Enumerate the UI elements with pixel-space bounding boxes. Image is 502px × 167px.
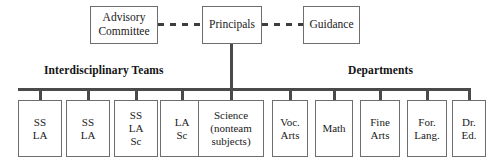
stub-line-leaf-5 [230, 88, 233, 100]
node-principals: Principals [202, 6, 262, 44]
stub-line-leaf-7 [333, 88, 336, 100]
node-leaf-dr-ed-label: Dr. Ed. [462, 116, 477, 142]
stub-line-leaf-3 [135, 88, 138, 100]
org-chart-diagram: Advisory Committee Principals Guidance I… [0, 0, 502, 167]
stub-line-leaf-4 [181, 88, 184, 100]
stub-line-leaf-10 [468, 88, 471, 100]
node-leaf-ss-la-1: SS LA [18, 100, 62, 157]
stub-line-leaf-2 [87, 88, 90, 100]
node-leaf-for-lang-label: For. Lang. [414, 116, 439, 142]
node-leaf-la-sc-label: LA Sc [175, 116, 190, 142]
stub-line-leaf-1 [39, 88, 42, 100]
node-leaf-fine-arts-label: Fine Arts [370, 116, 390, 142]
node-leaf-science-nonteam-label: Science (nonteam subjects) [210, 109, 252, 148]
node-leaf-voc-arts-label: Voc. Arts [280, 116, 300, 142]
horizontal-bus-line [18, 88, 468, 91]
stub-line-leaf-9 [426, 88, 429, 100]
node-leaf-ss-la-sc-label: SS LA Sc [129, 109, 144, 148]
node-leaf-math: Math [315, 100, 353, 157]
node-leaf-ss-la-2: SS LA [66, 100, 110, 157]
node-leaf-math-label: Math [322, 122, 345, 135]
node-guidance: Guidance [303, 6, 360, 44]
node-leaf-voc-arts: Voc. Arts [272, 100, 308, 157]
node-advisory-committee-label: Advisory Committee [98, 11, 149, 38]
node-guidance-label: Guidance [309, 18, 353, 32]
node-principals-label: Principals [209, 18, 255, 32]
node-leaf-fine-arts: Fine Arts [360, 100, 400, 157]
stub-line-leaf-8 [379, 88, 382, 100]
dashed-connector-principals-guidance [262, 23, 303, 26]
dashed-connector-advisory-principals [158, 23, 202, 26]
node-leaf-for-lang: For. Lang. [407, 100, 447, 157]
heading-interdisciplinary-teams: Interdisciplinary Teams [44, 64, 164, 76]
node-advisory-committee: Advisory Committee [90, 6, 158, 44]
stub-line-leaf-6 [289, 88, 292, 100]
node-leaf-ss-la-2-label: SS LA [81, 116, 96, 142]
heading-departments: Departments [348, 64, 413, 76]
node-leaf-ss-la-sc: SS LA Sc [114, 100, 158, 157]
node-leaf-dr-ed: Dr. Ed. [452, 100, 486, 157]
trunk-line-principals [230, 44, 233, 91]
node-leaf-ss-la-1-label: SS LA [33, 116, 48, 142]
node-leaf-science-nonteam: Science (nonteam subjects) [198, 100, 264, 157]
